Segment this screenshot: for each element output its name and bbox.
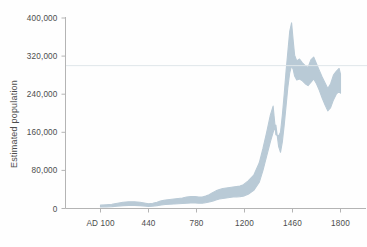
y-tick-label: 160,000	[27, 128, 58, 137]
x-tick-label: 1460	[283, 219, 302, 228]
chart-axes	[62, 17, 367, 213]
x-tick-label: 440	[141, 219, 155, 228]
x-tick-label: 1200	[235, 219, 254, 228]
population-area-chart: 080,000160,000240,000320,000400,000 AD 1…	[0, 0, 367, 247]
y-tick-label: 400,000	[27, 14, 58, 23]
x-tick-label: 780	[189, 219, 203, 228]
y-axis-title: Estimated population	[9, 80, 19, 168]
x-axis-tick-labels: AD 100440780120014601800	[86, 219, 350, 228]
y-tick-label: 80,000	[32, 166, 58, 175]
y-axis-tick-labels: 080,000160,000240,000320,000400,000	[27, 14, 58, 214]
x-tick-label: 1800	[331, 219, 350, 228]
population-band	[101, 23, 341, 207]
x-tick-label: AD 100	[86, 219, 115, 228]
chart-canvas: 080,000160,000240,000320,000400,000 AD 1…	[0, 0, 367, 247]
y-tick-label: 240,000	[27, 90, 58, 99]
y-tick-label: 320,000	[27, 52, 58, 61]
y-tick-label: 0	[53, 205, 58, 214]
uncertainty-band	[101, 23, 341, 207]
